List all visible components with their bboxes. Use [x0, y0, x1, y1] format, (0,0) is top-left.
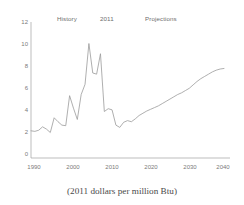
- chart-caption: (2011 dollars per million Btu): [0, 186, 244, 196]
- chart-container: History 2011 Projections 12 10 8 6 4 2 0…: [0, 0, 244, 205]
- price-series-line: [31, 44, 224, 133]
- plot-area: [0, 0, 244, 205]
